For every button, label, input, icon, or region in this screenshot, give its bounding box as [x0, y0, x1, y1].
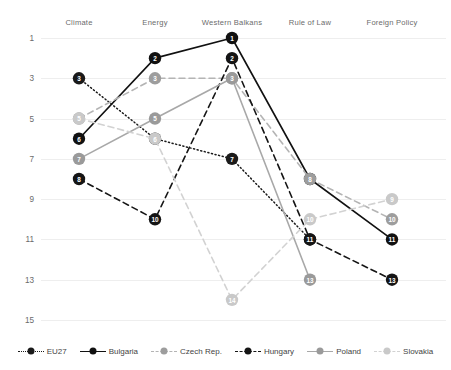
data-point-marker — [73, 173, 85, 185]
legend-swatch — [307, 346, 333, 356]
series-line — [79, 58, 392, 280]
series-slovakia: 5614109 — [73, 112, 398, 306]
data-point-marker — [226, 72, 238, 84]
series-line — [79, 78, 392, 219]
data-point-marker — [386, 274, 398, 286]
series-poland: 75313 — [73, 72, 316, 286]
data-point-marker — [226, 294, 238, 306]
legend-label: Czech Rep. — [180, 347, 222, 356]
legend-item-slovakia[interactable]: Slovakia — [374, 346, 433, 356]
rank-line-chart: 13579111315 ClimateEnergyWestern Balkans… — [0, 0, 451, 370]
data-point-marker — [149, 72, 161, 84]
data-point-marker — [149, 52, 161, 64]
data-point-marker — [386, 193, 398, 205]
legend-label: Hungary — [264, 347, 294, 356]
series-line — [79, 78, 310, 279]
data-point-marker — [226, 32, 238, 44]
legend-label: Bulgaria — [109, 347, 138, 356]
legend-marker — [244, 348, 251, 355]
legend-swatch — [80, 346, 106, 356]
data-point-marker — [304, 173, 316, 185]
legend-swatch — [374, 346, 400, 356]
legend-item-czech-rep[interactable]: Czech Rep. — [151, 346, 222, 356]
series-line — [79, 119, 392, 300]
legend-item-eu27[interactable]: EU27 — [18, 346, 67, 356]
series-bulgaria: 621811 — [73, 32, 398, 246]
legend-item-bulgaria[interactable]: Bulgaria — [80, 346, 138, 356]
chart-legend: EU27BulgariaCzech Rep.HungaryPolandSlova… — [0, 346, 451, 356]
plot-area: 3671162181153381081021113753135614109 — [0, 0, 451, 370]
data-point-marker — [304, 274, 316, 286]
data-point-marker — [73, 153, 85, 165]
data-point-marker — [304, 213, 316, 225]
data-point-marker — [73, 133, 85, 145]
legend-label: EU27 — [47, 347, 67, 356]
data-point-marker — [149, 112, 161, 124]
series-czech-rep: 533810 — [73, 72, 398, 225]
legend-item-poland[interactable]: Poland — [307, 346, 361, 356]
legend-label: Poland — [336, 347, 361, 356]
data-point-marker — [226, 153, 238, 165]
legend-marker — [89, 348, 96, 355]
data-point-marker — [304, 233, 316, 245]
legend-item-hungary[interactable]: Hungary — [235, 346, 294, 356]
legend-marker — [27, 348, 34, 355]
legend-swatch — [18, 346, 44, 356]
data-point-marker — [149, 213, 161, 225]
data-point-marker — [386, 213, 398, 225]
legend-swatch — [151, 346, 177, 356]
data-point-marker — [73, 72, 85, 84]
legend-label: Slovakia — [403, 347, 433, 356]
data-point-marker — [226, 52, 238, 64]
legend-marker — [317, 348, 324, 355]
legend-marker — [161, 348, 168, 355]
legend-marker — [384, 348, 391, 355]
data-point-marker — [149, 133, 161, 145]
data-point-marker — [386, 233, 398, 245]
legend-swatch — [235, 346, 261, 356]
data-point-marker — [73, 112, 85, 124]
